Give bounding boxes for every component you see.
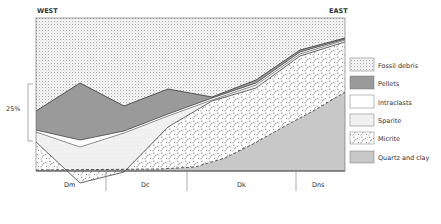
lithofacies-diagram: WEST EAST Dm Dc Dk Dns 25% Fossil debris…	[0, 0, 441, 224]
legend-swatch-sparite	[350, 114, 374, 126]
legend-label-pellets: Pellets	[378, 80, 400, 88]
scale-bracket	[28, 84, 33, 141]
legend-swatch-micrite	[350, 132, 374, 144]
legend-label-micrite: Micrite	[378, 135, 400, 143]
west-label: WEST	[37, 7, 58, 15]
east-label: EAST	[329, 7, 348, 15]
scale-label: 25%	[6, 105, 20, 113]
legend-swatch-intraclasts	[350, 95, 374, 108]
legend-swatch-fossil-debris	[350, 58, 374, 71]
legend-label-sparite: Sparite	[378, 117, 401, 125]
legend-swatch-pellets	[350, 76, 374, 89]
legend-label-fossil-debris: Fossil debris	[378, 62, 419, 70]
legend: Fossil debris Pellets Intraclasts Sparit…	[350, 58, 430, 163]
zone-label-dns: Dns	[312, 181, 325, 189]
legend-label-intraclasts: Intraclasts	[378, 99, 413, 107]
legend-swatch-quartz-clay	[350, 151, 374, 163]
zone-label-dk: Dk	[237, 181, 246, 189]
zone-label-dc: Dc	[141, 181, 150, 189]
zone-label-dm: Dm	[64, 181, 75, 189]
legend-label-quartz-clay: Quartz and clay	[378, 154, 430, 162]
